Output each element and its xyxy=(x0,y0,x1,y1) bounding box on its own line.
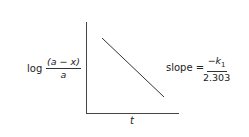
y-label-numerator: (a − x) xyxy=(46,57,81,69)
slope-denominator: 2.303 xyxy=(203,72,230,83)
slope-numerator-k: −k xyxy=(208,55,221,66)
y-axis-label-fraction: (a − x) a xyxy=(46,57,81,80)
slope-fraction: −k1 2.303 xyxy=(203,56,230,83)
y-axis-label-log: log xyxy=(27,64,42,74)
slope-subscript: 1 xyxy=(221,61,225,69)
x-axis-label: t xyxy=(130,116,134,126)
data-line xyxy=(102,38,164,97)
slope-label: slope = xyxy=(166,63,204,73)
slope-numerator: −k1 xyxy=(207,56,227,72)
y-label-denominator: a xyxy=(61,69,67,80)
